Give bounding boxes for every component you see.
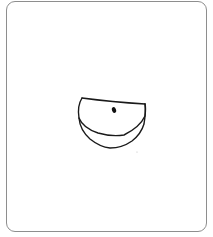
stray-speck — [136, 151, 137, 152]
top-edge-line — [82, 98, 145, 104]
sketch-drawing — [0, 0, 213, 237]
center-dot — [111, 106, 117, 113]
